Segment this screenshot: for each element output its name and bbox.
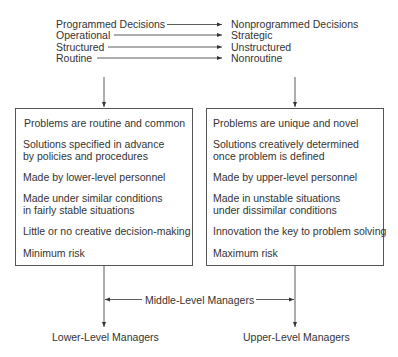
box-item: Made by upper-level personnel <box>213 171 357 184</box>
term-operational: Operational <box>56 29 110 41</box>
box-item: by policies and procedures <box>23 150 148 163</box>
box-item: Maximum risk <box>213 247 278 260</box>
box-item: Made under similar conditions <box>23 192 162 205</box>
middle-level-managers-label: Middle-Level Managers <box>145 294 254 306</box>
box-item: Problems are unique and novel <box>213 117 358 130</box>
box-item: Solutions creatively determined <box>213 138 359 151</box>
lower-level-managers-label: Lower-Level Managers <box>52 331 159 343</box>
box-item: Made by lower-level personnel <box>23 171 165 184</box>
term-routine: Routine <box>56 52 92 64</box>
term-nonroutine: Nonroutine <box>231 52 282 64</box>
box-item: Innovation the key to problem solving <box>213 225 386 238</box>
box-item: Little or no creative decision-making <box>23 225 191 238</box>
box-item: once problem is defined <box>213 150 325 163</box>
upper-level-managers-label: Upper-Level Managers <box>243 331 350 343</box>
nonprogrammed-decisions-box: Problems are unique and novel Solutions … <box>206 108 384 266</box>
box-item: Solutions specified in advance <box>23 138 164 151</box>
box-item: Made in unstable situations <box>213 192 340 205</box>
programmed-decisions-box: Problems are routine and common Solution… <box>15 108 193 266</box>
box-item: in fairly stable situations <box>23 204 134 217</box>
box-item: Problems are routine and common <box>24 117 185 130</box>
box-item: Minimum risk <box>23 247 85 260</box>
term-strategic: Strategic <box>231 29 272 41</box>
box-item: under dissimilar conditions <box>213 204 337 217</box>
